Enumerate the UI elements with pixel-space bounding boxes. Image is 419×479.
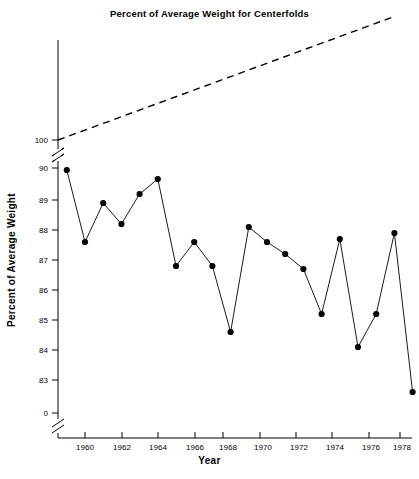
data-point <box>173 263 179 269</box>
x-tick-label: 1972 <box>290 443 308 452</box>
plot-area: 100 90 89 88 87 86 85 84 83 0 1960 1962 … <box>0 0 419 479</box>
data-point <box>300 266 306 272</box>
data-point <box>209 263 215 269</box>
y-tick-label: 88 <box>39 226 48 235</box>
y-tick-label: 89 <box>39 196 48 205</box>
reference-trend-line <box>58 17 393 140</box>
data-point <box>228 329 234 335</box>
data-point <box>282 251 288 257</box>
y-tick-label: 0 <box>44 409 49 418</box>
data-point <box>410 389 416 395</box>
data-point <box>355 344 361 350</box>
data-point <box>191 239 197 245</box>
x-tick-label: 1964 <box>149 443 167 452</box>
data-point <box>100 200 106 206</box>
y-tick-label: 83 <box>39 376 48 385</box>
data-point <box>64 167 70 173</box>
data-point <box>118 221 124 227</box>
y-tick-label: 84 <box>39 346 48 355</box>
data-point <box>373 311 379 317</box>
data-point <box>337 236 343 242</box>
y-tick-label: 90 <box>39 164 48 173</box>
x-axis-ticks <box>85 432 400 438</box>
y-tick-label: 85 <box>39 316 48 325</box>
data-point <box>82 239 88 245</box>
y-tick-label: 86 <box>39 286 48 295</box>
x-tick-label: 1960 <box>76 443 94 452</box>
x-tick-label: 1970 <box>254 443 272 452</box>
x-tick-label: 1976 <box>362 443 380 452</box>
y-tick-label: 100 <box>35 136 49 145</box>
data-point <box>264 239 270 245</box>
data-point <box>137 191 143 197</box>
x-tick-label: 1966 <box>186 443 204 452</box>
y-axis-ticks <box>52 140 58 413</box>
y-axis-break-upper <box>52 148 64 162</box>
data-point <box>246 224 252 230</box>
data-point <box>391 230 397 236</box>
y-axis-break-lower <box>52 419 64 433</box>
y-tick-label: 87 <box>39 256 48 265</box>
x-tick-label: 1974 <box>326 443 344 452</box>
x-tick-label: 1962 <box>113 443 131 452</box>
data-point <box>319 311 325 317</box>
data-point <box>155 176 161 182</box>
chart-container: Percent of Average Weight for Centerfold… <box>0 0 419 479</box>
x-tick-label: 1968 <box>219 443 237 452</box>
x-tick-label: 1978 <box>393 443 411 452</box>
data-series-line <box>67 170 413 392</box>
